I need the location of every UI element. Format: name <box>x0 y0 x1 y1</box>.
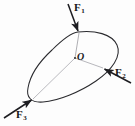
force-label-f2: F2 <box>115 67 125 78</box>
force-label-f3-letter: F <box>16 108 23 120</box>
force-label-f1: F1 <box>74 2 84 13</box>
force-diagram-figure: F1 F2 F3 O <box>0 0 135 126</box>
point-o-marker <box>74 57 76 59</box>
point-label-o: O <box>77 52 84 62</box>
construction-lines-group <box>33 33 103 99</box>
force-label-f1-subscript: 1 <box>81 7 85 15</box>
force-label-f3: F3 <box>16 109 26 120</box>
force-label-f3-subscript: 3 <box>23 114 27 122</box>
force-label-f2-subscript: 2 <box>122 72 126 80</box>
force-label-f1-letter: F <box>74 1 81 13</box>
force-label-f2-letter: F <box>115 66 122 78</box>
